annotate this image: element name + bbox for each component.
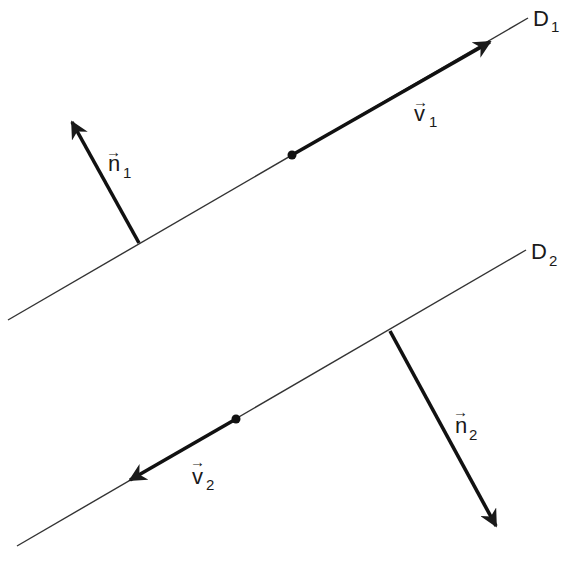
svg-text:n: n xyxy=(108,151,120,176)
svg-text:2: 2 xyxy=(549,252,557,269)
svg-text:1: 1 xyxy=(551,18,559,35)
label-v2: → v 2 xyxy=(190,453,214,493)
point-on-d1 xyxy=(288,151,297,160)
point-on-d2 xyxy=(232,415,241,424)
label-v1: → v 1 xyxy=(413,93,437,130)
svg-text:v: v xyxy=(192,464,203,489)
vector-n2-arrow xyxy=(390,331,496,526)
vector-n1-arrow xyxy=(72,122,139,243)
svg-text:v: v xyxy=(414,101,425,126)
label-n2: → n 2 xyxy=(453,403,477,443)
svg-text:D: D xyxy=(533,6,549,31)
svg-text:2: 2 xyxy=(206,476,214,493)
svg-text:n: n xyxy=(455,413,467,438)
parallel-lines-diagram: D 1 D 2 → n 1 → v 1 → v 2 → n 2 xyxy=(0,0,579,563)
svg-text:1: 1 xyxy=(429,113,437,130)
label-n1: → n 1 xyxy=(106,143,131,181)
vector-v2-arrow xyxy=(130,419,236,480)
svg-text:2: 2 xyxy=(469,426,477,443)
label-d1: D 1 xyxy=(533,6,559,35)
line-d2 xyxy=(17,250,526,546)
svg-text:D: D xyxy=(531,239,547,264)
label-d2: D 2 xyxy=(531,239,557,269)
svg-text:1: 1 xyxy=(123,164,131,181)
diagram-canvas: D 1 D 2 → n 1 → v 1 → v 2 → n 2 xyxy=(0,0,579,563)
vector-v1-arrow xyxy=(292,42,490,155)
